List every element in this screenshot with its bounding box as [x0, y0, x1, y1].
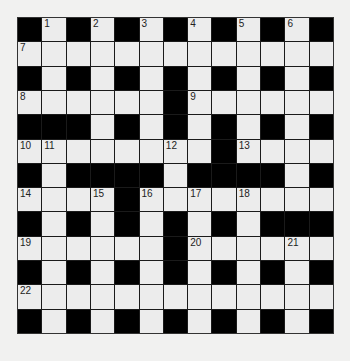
answer-cell[interactable] — [67, 188, 90, 211]
answer-cell[interactable] — [42, 261, 65, 284]
answer-cell[interactable] — [91, 140, 114, 163]
answer-cell[interactable] — [237, 91, 260, 114]
answer-cell[interactable] — [140, 212, 163, 235]
answer-cell[interactable] — [212, 91, 235, 114]
answer-cell[interactable] — [212, 188, 235, 211]
answer-cell[interactable] — [261, 285, 284, 308]
answer-cell[interactable] — [285, 140, 308, 163]
answer-cell[interactable] — [261, 140, 284, 163]
answer-cell[interactable] — [140, 115, 163, 138]
answer-cell[interactable] — [91, 42, 114, 65]
answer-cell[interactable] — [91, 310, 114, 333]
answer-cell[interactable]: 1 — [42, 18, 65, 41]
answer-cell[interactable] — [261, 91, 284, 114]
answer-cell[interactable] — [140, 91, 163, 114]
answer-cell[interactable] — [237, 42, 260, 65]
answer-cell[interactable] — [261, 42, 284, 65]
answer-cell[interactable] — [140, 140, 163, 163]
answer-cell[interactable] — [285, 42, 308, 65]
answer-cell[interactable]: 19 — [18, 237, 41, 260]
answer-cell[interactable]: 22 — [18, 285, 41, 308]
answer-cell[interactable] — [310, 91, 333, 114]
answer-cell[interactable] — [285, 67, 308, 90]
answer-cell[interactable]: 9 — [188, 91, 211, 114]
answer-cell[interactable] — [285, 115, 308, 138]
answer-cell[interactable] — [285, 188, 308, 211]
answer-cell[interactable] — [42, 310, 65, 333]
answer-cell[interactable]: 2 — [91, 18, 114, 41]
answer-cell[interactable] — [237, 285, 260, 308]
answer-cell[interactable]: 10 — [18, 140, 41, 163]
answer-cell[interactable] — [188, 212, 211, 235]
answer-cell[interactable] — [237, 212, 260, 235]
answer-cell[interactable]: 3 — [140, 18, 163, 41]
answer-cell[interactable]: 17 — [188, 188, 211, 211]
answer-cell[interactable]: 20 — [188, 237, 211, 260]
answer-cell[interactable] — [237, 67, 260, 90]
answer-cell[interactable] — [188, 261, 211, 284]
answer-cell[interactable] — [91, 237, 114, 260]
answer-cell[interactable] — [42, 164, 65, 187]
answer-cell[interactable]: 4 — [188, 18, 211, 41]
answer-cell[interactable] — [285, 285, 308, 308]
answer-cell[interactable] — [188, 285, 211, 308]
answer-cell[interactable] — [91, 261, 114, 284]
answer-cell[interactable] — [237, 237, 260, 260]
answer-cell[interactable] — [91, 67, 114, 90]
answer-cell[interactable] — [188, 42, 211, 65]
answer-cell[interactable] — [42, 188, 65, 211]
answer-cell[interactable] — [115, 91, 138, 114]
answer-cell[interactable] — [188, 67, 211, 90]
answer-cell[interactable]: 6 — [285, 18, 308, 41]
answer-cell[interactable] — [285, 91, 308, 114]
answer-cell[interactable] — [42, 67, 65, 90]
answer-cell[interactable] — [42, 42, 65, 65]
answer-cell[interactable]: 15 — [91, 188, 114, 211]
answer-cell[interactable] — [310, 237, 333, 260]
answer-cell[interactable] — [310, 188, 333, 211]
answer-cell[interactable] — [310, 285, 333, 308]
answer-cell[interactable] — [164, 285, 187, 308]
answer-cell[interactable] — [285, 164, 308, 187]
answer-cell[interactable]: 14 — [18, 188, 41, 211]
answer-cell[interactable] — [285, 310, 308, 333]
answer-cell[interactable] — [140, 42, 163, 65]
answer-cell[interactable] — [140, 261, 163, 284]
answer-cell[interactable]: 8 — [18, 91, 41, 114]
answer-cell[interactable] — [115, 42, 138, 65]
answer-cell[interactable] — [140, 237, 163, 260]
answer-cell[interactable]: 5 — [237, 18, 260, 41]
answer-cell[interactable] — [42, 285, 65, 308]
answer-cell[interactable] — [67, 42, 90, 65]
answer-cell[interactable] — [188, 115, 211, 138]
answer-cell[interactable]: 21 — [285, 237, 308, 260]
answer-cell[interactable] — [42, 91, 65, 114]
answer-cell[interactable] — [212, 285, 235, 308]
answer-cell[interactable] — [212, 42, 235, 65]
answer-cell[interactable] — [115, 140, 138, 163]
answer-cell[interactable] — [91, 91, 114, 114]
answer-cell[interactable] — [237, 261, 260, 284]
answer-cell[interactable] — [310, 42, 333, 65]
answer-cell[interactable] — [67, 237, 90, 260]
answer-cell[interactable]: 16 — [140, 188, 163, 211]
answer-cell[interactable] — [140, 285, 163, 308]
answer-cell[interactable] — [91, 285, 114, 308]
answer-cell[interactable] — [261, 237, 284, 260]
answer-cell[interactable] — [188, 310, 211, 333]
answer-cell[interactable] — [237, 310, 260, 333]
answer-cell[interactable] — [42, 237, 65, 260]
answer-cell[interactable] — [261, 188, 284, 211]
answer-cell[interactable] — [164, 42, 187, 65]
answer-cell[interactable]: 18 — [237, 188, 260, 211]
answer-cell[interactable] — [164, 188, 187, 211]
answer-cell[interactable] — [310, 140, 333, 163]
answer-cell[interactable] — [140, 67, 163, 90]
answer-cell[interactable] — [91, 115, 114, 138]
answer-cell[interactable] — [115, 237, 138, 260]
answer-cell[interactable]: 12 — [164, 140, 187, 163]
answer-cell[interactable]: 13 — [237, 140, 260, 163]
answer-cell[interactable] — [67, 285, 90, 308]
answer-cell[interactable] — [237, 115, 260, 138]
answer-cell[interactable] — [67, 91, 90, 114]
